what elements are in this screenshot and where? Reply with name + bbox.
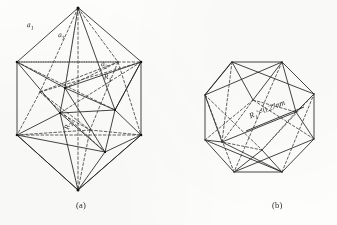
vertex-markers-left — [16, 7, 143, 192]
apex-bottom-to-s3 — [78, 135, 141, 190]
outline-hexagon — [17, 8, 141, 190]
vertex-upper-left — [16, 61, 19, 64]
icosahedron-left — [17, 8, 141, 190]
mid-cross-a — [65, 88, 105, 152]
panel-caption-b: (b) — [272, 200, 283, 210]
apex-bottom-to-s4 — [17, 135, 78, 190]
r-chord-2 — [205, 62, 282, 95]
vertex-mid-s1 — [104, 151, 106, 153]
r-inner-8 — [232, 62, 253, 100]
r-edge-ul — [205, 62, 232, 95]
mid-cross-b — [60, 110, 115, 113]
vertex-bottom — [77, 189, 80, 192]
icosahedron-left-hidden-edges — [17, 8, 141, 190]
label-edge-a1: a1 — [27, 20, 34, 31]
apex-to-back-right — [78, 8, 118, 62]
label-edge-a3: a3 — [58, 30, 65, 41]
r-inner-10 — [234, 150, 262, 172]
left-upper-to-mid — [17, 62, 60, 113]
lower-ring-left — [17, 113, 60, 135]
mid-connector-left — [60, 88, 65, 113]
figure-root: a1 a3 a2 R1 R2 R1'=0.27nm (a) (b) — [0, 0, 337, 225]
label-edge-a2: a2 — [101, 59, 108, 70]
panel-a-drawing — [0, 0, 337, 225]
vertex-lower-right — [140, 134, 143, 137]
mid-connector-right — [105, 110, 115, 152]
label-radius-R1: R1 — [104, 72, 112, 83]
rh-11 — [205, 95, 234, 172]
vertex-top — [77, 7, 80, 10]
panel-caption-a: (a) — [76, 200, 86, 210]
vertex-mid-n1 — [64, 87, 66, 89]
apex-shadow — [65, 8, 78, 88]
vertex-upper-right — [140, 61, 143, 64]
vertex-lower-left — [16, 134, 19, 137]
apex-bottom-to-s1 — [78, 152, 105, 190]
vertex-mid-s2 — [59, 112, 61, 114]
rh-3 — [205, 95, 262, 150]
r-chord-4 — [205, 140, 282, 172]
back-lower-2 — [90, 130, 141, 135]
back-lower-1 — [17, 130, 90, 135]
back-left-down — [17, 92, 40, 135]
rh-10 — [222, 142, 262, 150]
vertex-mid-n2 — [114, 109, 116, 111]
lower-ring-front — [17, 135, 141, 152]
r-inner-9 — [253, 62, 282, 100]
r-inner-3 — [222, 142, 282, 172]
